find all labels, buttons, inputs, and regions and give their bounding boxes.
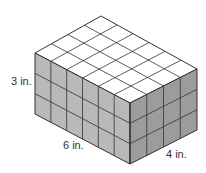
length-label: 6 in.: [63, 139, 84, 151]
rectangular-prism-diagram: 3 in. 6 in. 4 in.: [0, 0, 206, 173]
height-label: 3 in.: [11, 75, 32, 87]
width-label: 4 in.: [166, 148, 187, 160]
